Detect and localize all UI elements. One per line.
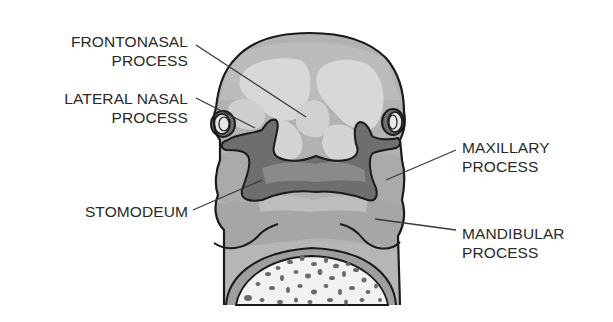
label-maxillary-line1: MAXILLARY (462, 138, 602, 157)
label-frontonasal-line2: PROCESS (30, 51, 188, 70)
label-mandibular-process: MANDIBULAR PROCESS (462, 224, 602, 262)
label-frontonasal-process: FRONTONASAL PROCESS (30, 32, 188, 70)
label-maxillary-process: MAXILLARY PROCESS (462, 138, 602, 176)
label-frontonasal-line1: FRONTONASAL (30, 32, 188, 51)
label-mandibular-line1: MANDIBULAR (462, 224, 602, 243)
label-stomodeum: STOMODEUM (30, 202, 188, 221)
right-eye (382, 109, 404, 135)
frontonasal-center (296, 100, 329, 137)
label-mandibular-line2: PROCESS (462, 243, 602, 262)
embryo-face-diagram: FRONTONASAL PROCESS LATERAL NASAL PROCES… (0, 0, 613, 322)
label-lateral-nasal-line1: LATERAL NASAL (30, 89, 188, 108)
label-lateral-nasal-line2: PROCESS (30, 108, 188, 127)
head (210, 33, 410, 322)
label-stomodeum-line1: STOMODEUM (30, 202, 188, 221)
label-lateral-nasal-process: LATERAL NASAL PROCESS (30, 89, 188, 127)
label-maxillary-line2: PROCESS (462, 157, 602, 176)
